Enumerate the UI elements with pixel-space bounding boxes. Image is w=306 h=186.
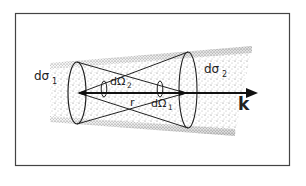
svg-text:1: 1 [168, 103, 173, 112]
svg-text:dΩ: dΩ [151, 97, 166, 110]
svg-text:dΩ: dΩ [110, 75, 125, 88]
svg-text:2: 2 [222, 70, 227, 79]
scattering-geometry-diagram: dσ 1 dσ 2 dΩ 2 dΩ 1 r k [0, 0, 306, 186]
svg-text:2: 2 [127, 81, 132, 90]
svg-text:dσ: dσ [34, 69, 50, 83]
label-r: r [130, 96, 135, 109]
svg-text:dσ: dσ [204, 62, 220, 76]
svg-text:1: 1 [52, 77, 57, 86]
label-k: k [238, 94, 250, 114]
